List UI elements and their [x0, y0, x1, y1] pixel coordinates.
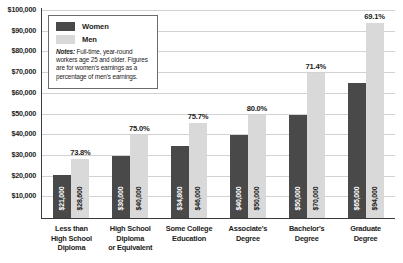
category-label-line: Degree	[336, 234, 395, 244]
y-tick-label: $60,000	[11, 87, 36, 96]
category-label: GraduateDegree	[336, 224, 395, 243]
category-label: Less thanHigh SchoolDiploma	[42, 224, 101, 253]
category-label: Bachelor'sDegree	[277, 224, 336, 243]
category-label: Associate'sDegree	[219, 224, 278, 243]
category-label: High SchoolDiplomaor Equivalent	[101, 224, 160, 253]
category-label-line: or Equivalent	[101, 243, 160, 253]
ratio-label: 75.0%	[121, 124, 157, 133]
legend-item-men: Men	[56, 35, 150, 44]
category-label-line: Degree	[277, 234, 336, 244]
bar-men: $28,600	[71, 159, 89, 218]
bar-men: $50,000	[248, 115, 266, 219]
category-label-line: High School	[101, 224, 160, 234]
bar-chart: $10,000$20,000$30,000$40,000$50,000$60,0…	[0, 0, 403, 263]
category-label-line: Education	[160, 234, 219, 244]
bar-group: $50,000$70,00071.4%	[289, 8, 325, 218]
bar-value-label: $94,000	[371, 187, 378, 211]
bar-value-label: $40,000	[136, 187, 143, 211]
category-label-line: Degree	[219, 234, 278, 244]
bar-value-label: $70,000	[312, 187, 319, 211]
legend-label-women: Women	[82, 22, 109, 31]
category-label-line: Bachelor's	[277, 224, 336, 234]
gridline	[42, 176, 395, 177]
bar-men: $94,000	[366, 23, 384, 218]
y-tick-label: $40,000	[11, 129, 36, 138]
legend-swatch-women-icon	[56, 22, 75, 31]
bar-men: $70,000	[307, 73, 325, 218]
bar-group: $34,800$46,00075.7%	[171, 8, 207, 218]
bar-women: $50,000	[289, 115, 307, 219]
bar-group: $65,000$94,00069.1%	[348, 8, 384, 218]
ratio-label: 80.0%	[239, 104, 275, 113]
legend: Women Men Notes: Full-time, year-round w…	[48, 15, 158, 89]
bar-value-label: $28,600	[77, 187, 84, 211]
legend-swatch-men-icon	[56, 35, 75, 44]
y-tick-label: $30,000	[11, 149, 36, 158]
category-label-line: High School	[42, 234, 101, 244]
bar-group: $40,000$50,00080.0%	[230, 8, 266, 218]
bar-women: $34,800	[171, 146, 189, 218]
y-tick-label: $70,000	[11, 67, 36, 76]
gridline	[42, 93, 395, 94]
bar-women: $65,000	[348, 83, 366, 218]
bar-value-label: $46,000	[195, 187, 202, 211]
ratio-label: 73.8%	[62, 148, 98, 157]
y-tick-label: $100,000	[8, 5, 36, 14]
gridline	[42, 134, 395, 135]
bar-women: $30,000	[112, 156, 130, 218]
category-label-line: Diploma	[101, 234, 160, 244]
ratio-label: 75.7%	[180, 112, 216, 121]
category-label-line: Some College	[160, 224, 219, 234]
bar-value-label: $65,000	[353, 187, 360, 211]
bar-women: $21,000	[53, 175, 71, 218]
legend-item-women: Women	[56, 22, 150, 31]
y-tick-label: $10,000	[11, 191, 36, 200]
legend-notes-prefix: Notes:	[56, 48, 75, 55]
bar-women: $40,000	[230, 135, 248, 218]
bar-men: $46,000	[189, 123, 207, 218]
bar-value-label: $21,000	[59, 187, 66, 211]
category-label-line: Diploma	[42, 243, 101, 253]
category-label-line: Less than	[42, 224, 101, 234]
y-tick-label: $50,000	[11, 108, 36, 117]
y-tick-label: $90,000	[11, 25, 36, 34]
bar-value-label: $30,000	[118, 187, 125, 211]
bar-men: $40,000	[130, 135, 148, 218]
ratio-label: 69.1%	[357, 12, 393, 21]
category-label-line: Graduate	[336, 224, 395, 234]
gridline	[42, 10, 395, 11]
gridline	[42, 114, 395, 115]
legend-label-men: Men	[82, 35, 97, 44]
x-axis-line	[41, 218, 395, 219]
y-tick-label: $20,000	[11, 170, 36, 179]
category-label-line: Associate's	[219, 224, 278, 234]
bar-value-label: $50,000	[294, 187, 301, 211]
ratio-label: 71.4%	[298, 62, 334, 71]
x-axis-category-labels: Less thanHigh SchoolDiplomaHigh SchoolDi…	[42, 224, 395, 263]
legend-notes: Notes: Full-time, year-round workers age…	[56, 48, 150, 81]
y-axis: $10,000$20,000$30,000$40,000$50,000$60,0…	[0, 0, 40, 219]
gridline	[42, 196, 395, 197]
bar-value-label: $34,800	[177, 187, 184, 211]
category-label: Some CollegeEducation	[160, 224, 219, 243]
bar-value-label: $40,000	[235, 187, 242, 211]
y-tick-label: $80,000	[11, 46, 36, 55]
bar-value-label: $50,000	[253, 187, 260, 211]
